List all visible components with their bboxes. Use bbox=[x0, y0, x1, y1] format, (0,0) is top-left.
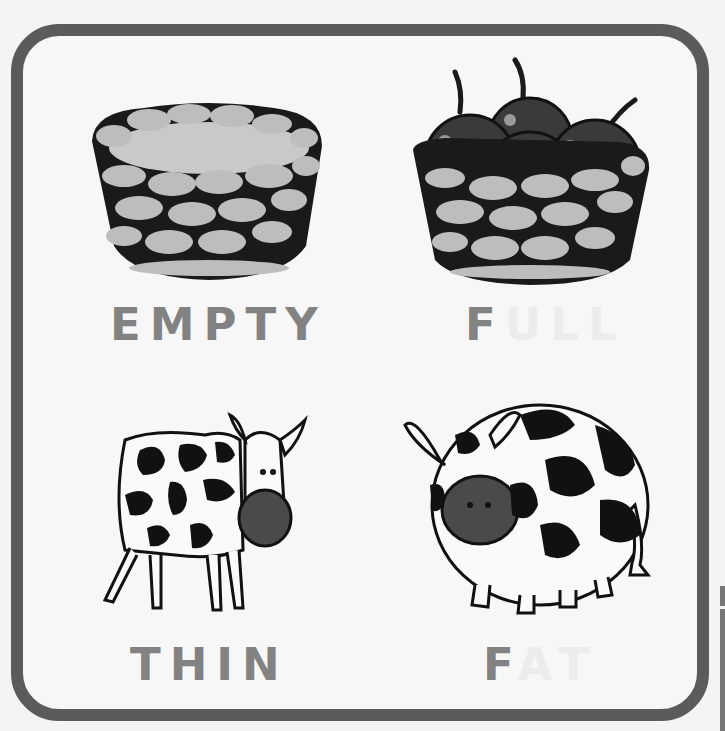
fat-cow-icon bbox=[400, 385, 655, 620]
empty-basket-icon bbox=[84, 96, 334, 286]
label-empty: EMPTY bbox=[110, 302, 327, 347]
label-thin: THIN bbox=[130, 642, 289, 687]
label-full-visible: F bbox=[465, 298, 505, 351]
label-fat-faint: AT bbox=[518, 638, 598, 691]
label-full-faint: ULL bbox=[505, 298, 626, 351]
label-thin-text: THIN bbox=[130, 638, 289, 691]
label-empty-text: EMPTY bbox=[110, 298, 327, 351]
edge-bar bbox=[720, 586, 725, 731]
label-fat: FAT bbox=[483, 642, 598, 687]
label-fat-visible: F bbox=[483, 638, 518, 691]
basket-of-apples-icon bbox=[405, 50, 655, 285]
thin-cow-icon bbox=[95, 400, 315, 620]
label-full: FULL bbox=[465, 302, 626, 347]
